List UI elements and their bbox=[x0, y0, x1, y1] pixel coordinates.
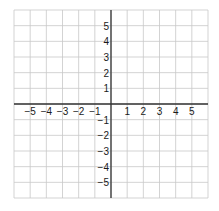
x-tick-label: −2 bbox=[73, 106, 85, 117]
x-axis-labels: −5−4−3−2−112345 bbox=[24, 106, 195, 117]
y-tick-label: −3 bbox=[98, 146, 110, 157]
y-tick-label: 2 bbox=[103, 68, 109, 79]
y-tick-label: −4 bbox=[98, 162, 110, 173]
x-tick-label: 1 bbox=[124, 106, 130, 117]
y-tick-label: −5 bbox=[98, 177, 110, 188]
x-tick-label: 3 bbox=[157, 106, 163, 117]
axes bbox=[14, 10, 208, 198]
y-tick-label: 3 bbox=[103, 52, 109, 63]
coordinate-plane: −5−4−3−2−112345 54321−1−2−3−4−5 bbox=[0, 0, 219, 211]
x-tick-label: 2 bbox=[141, 106, 147, 117]
x-tick-label: −5 bbox=[24, 106, 36, 117]
y-tick-label: 4 bbox=[103, 36, 109, 47]
y-tick-label: 5 bbox=[103, 21, 109, 32]
x-tick-label: −4 bbox=[41, 106, 53, 117]
x-tick-label: −3 bbox=[57, 106, 69, 117]
x-tick-label: 5 bbox=[189, 106, 195, 117]
y-tick-label: −2 bbox=[98, 130, 110, 141]
y-tick-label: −1 bbox=[98, 115, 110, 126]
x-tick-label: 4 bbox=[173, 106, 179, 117]
y-tick-label: 1 bbox=[103, 83, 109, 94]
